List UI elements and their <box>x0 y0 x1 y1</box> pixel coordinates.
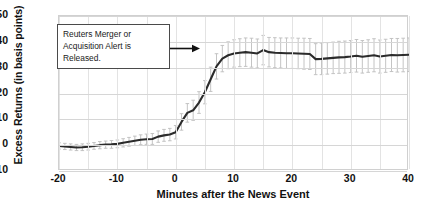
y-tick-label: 40 <box>0 34 8 46</box>
gridline-horizontal <box>59 145 407 146</box>
y-tick-label: -10 <box>0 163 8 175</box>
y-tick-label: 50 <box>0 8 8 20</box>
x-tick-label: 0 <box>155 172 195 184</box>
x-axis-title: Minutes after the News Event <box>58 188 408 200</box>
chart-figure: Excess Returns (in basis points) Reuters… <box>0 0 421 208</box>
annotation-arrow-icon <box>170 44 200 53</box>
cropped-title-strip <box>0 0 421 7</box>
x-tick-label: -20 <box>38 172 78 184</box>
x-tick-label: -10 <box>96 172 136 184</box>
gridline-horizontal <box>59 16 407 17</box>
gridline-vertical <box>409 16 410 169</box>
annotation-box: Reuters Merger or Acquisition Alert is R… <box>57 24 170 69</box>
annotation-text: Reuters Merger or Acquisition Alert is R… <box>63 29 131 63</box>
y-axis-title: Excess Returns (in basis points) <box>12 0 24 173</box>
x-tick-label: 10 <box>213 172 253 184</box>
x-tick-label: 30 <box>330 172 370 184</box>
x-tick-label: 20 <box>271 172 311 184</box>
y-tick-label: 10 <box>0 111 8 123</box>
y-tick-label: 30 <box>0 60 8 72</box>
y-tick-label: 20 <box>0 86 8 98</box>
x-tick-label: 40 <box>388 172 421 184</box>
gridline-horizontal <box>59 119 407 120</box>
y-tick-label: 0 <box>0 137 8 149</box>
gridline-horizontal <box>59 94 407 95</box>
